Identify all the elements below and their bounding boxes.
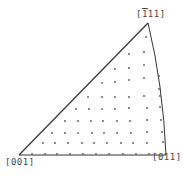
orientation-dot bbox=[77, 120, 79, 122]
orientation-dot bbox=[31, 153, 33, 155]
orientation-dot bbox=[64, 120, 66, 122]
orientation-dot bbox=[54, 142, 56, 144]
orientation-dot bbox=[128, 53, 130, 55]
orientation-dot bbox=[148, 153, 150, 155]
orientation-dot bbox=[122, 153, 124, 155]
orientation-dot bbox=[44, 153, 46, 155]
orientation-dot bbox=[114, 81, 116, 83]
orientation-dot bbox=[146, 107, 148, 109]
orientation-dot bbox=[145, 36, 147, 38]
orientation-dot bbox=[102, 120, 104, 122]
orientation-dot bbox=[129, 120, 131, 122]
orientation-dot bbox=[120, 142, 122, 144]
orientation-dot bbox=[114, 68, 116, 70]
orientation-dot bbox=[69, 153, 71, 155]
stereographic-triangle bbox=[0, 0, 182, 177]
orientation-dot bbox=[116, 120, 118, 122]
label-011: [011] bbox=[152, 152, 182, 162]
orientation-dot bbox=[146, 119, 148, 121]
orientation-dot bbox=[161, 131, 163, 133]
label-111-rest: 11] bbox=[148, 9, 166, 19]
orientation-dot bbox=[106, 142, 108, 144]
label-001: [001] bbox=[5, 157, 35, 167]
orientation-dot bbox=[128, 96, 130, 98]
orientation-dot bbox=[77, 132, 79, 134]
orientation-dot bbox=[159, 95, 161, 97]
orientation-dot bbox=[56, 153, 58, 155]
orientation-dot bbox=[116, 132, 118, 134]
orientation-dot bbox=[101, 96, 103, 98]
orientation-dot bbox=[159, 106, 161, 108]
orientation-dot bbox=[87, 96, 89, 98]
orientation-dot bbox=[146, 142, 148, 144]
orientation-dot bbox=[160, 119, 162, 121]
orientation-dot bbox=[91, 132, 93, 134]
edge-001-111 bbox=[19, 23, 148, 155]
orientation-dot bbox=[67, 142, 69, 144]
orientation-dots bbox=[31, 36, 164, 155]
edge-111-011-arc bbox=[148, 23, 166, 155]
orientation-dot bbox=[146, 131, 148, 133]
orientation-dot bbox=[103, 132, 105, 134]
orientation-dot bbox=[158, 88, 160, 90]
orientation-dot bbox=[64, 132, 66, 134]
orientation-dot bbox=[132, 142, 134, 144]
orientation-dot bbox=[143, 64, 145, 66]
orientation-dot bbox=[93, 142, 95, 144]
orientation-dot bbox=[143, 77, 145, 79]
orientation-dot bbox=[88, 108, 90, 110]
orientation-dot bbox=[143, 95, 145, 97]
orientation-dot bbox=[95, 153, 97, 155]
orientation-dot bbox=[128, 79, 130, 81]
orientation-dot bbox=[81, 142, 83, 144]
orientation-dot bbox=[82, 153, 84, 155]
orientation-dot bbox=[114, 96, 116, 98]
orientation-dot bbox=[130, 132, 132, 134]
orientation-dot bbox=[108, 153, 110, 155]
label-111: [111] bbox=[136, 9, 166, 19]
orientation-dot bbox=[143, 51, 145, 53]
orientation-dot bbox=[114, 108, 116, 110]
orientation-dot bbox=[101, 108, 103, 110]
orientation-dot bbox=[128, 67, 130, 69]
orientation-dot bbox=[101, 82, 103, 84]
orientation-dot bbox=[42, 142, 44, 144]
orientation-dot bbox=[162, 141, 164, 143]
orientation-dot bbox=[128, 107, 130, 109]
orientation-dot bbox=[135, 153, 137, 155]
orientation-dot bbox=[51, 132, 53, 134]
orientation-dot bbox=[158, 75, 160, 77]
orientation-dot bbox=[90, 120, 92, 122]
orientation-dot bbox=[75, 108, 77, 110]
